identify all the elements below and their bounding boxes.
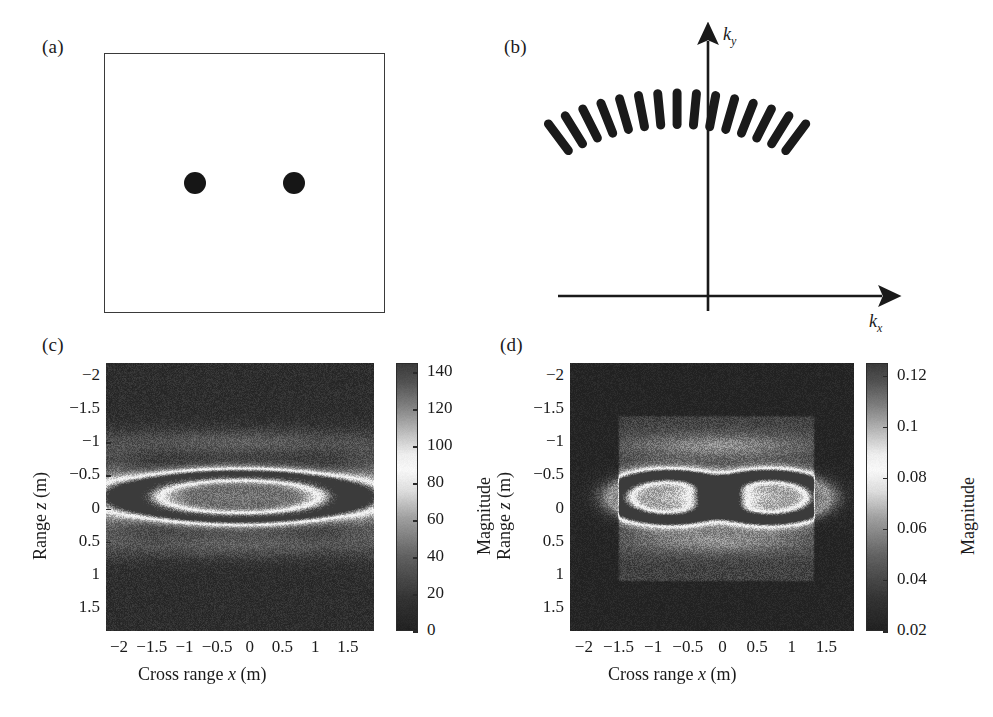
x-tickmark — [250, 626, 252, 631]
panel-c-label: (c) — [42, 334, 64, 356]
kspace-arc-segment — [658, 94, 661, 125]
scatter-point-right — [283, 172, 305, 194]
y-tick-label: 1 — [58, 564, 100, 584]
colorbar-tickmark — [883, 631, 888, 633]
colorbar-tick-label: 0 — [427, 620, 436, 640]
colorbar-tick-label: 20 — [427, 583, 444, 603]
kspace-arc-segment — [583, 109, 598, 138]
y-tickmark — [570, 509, 575, 511]
y-tickmark — [106, 409, 111, 411]
y-tick-label: −2 — [58, 365, 100, 385]
panel-c-colorbar-title: Magnitude — [474, 477, 495, 555]
colorbar-tick-label: 0.06 — [897, 518, 927, 538]
y-tick-label: −1.5 — [522, 398, 564, 418]
panel-d-label: (d) — [500, 334, 523, 356]
y-tickmark — [570, 608, 575, 610]
panel-d-yaxis-title-prefix: Range — [494, 510, 514, 560]
y-tick-label: 0 — [58, 498, 100, 518]
y-tickmark — [570, 409, 575, 411]
scatter-point-left — [184, 172, 206, 194]
kspace-arc-segment — [710, 96, 716, 127]
x-tickmark — [792, 626, 794, 631]
panel-c-yaxis-title-var: z — [30, 503, 50, 510]
x-tickmark — [348, 626, 350, 631]
ky-axis-label-k: k — [723, 24, 731, 44]
y-tickmark — [570, 376, 575, 378]
panel-d-yaxis-title: Range z (m) — [494, 472, 515, 560]
colorbar-tickmark — [413, 520, 418, 522]
y-tickmark — [106, 542, 111, 544]
y-tick-label: −0.5 — [58, 464, 100, 484]
colorbar-tickmark — [883, 376, 888, 378]
panel-d-xaxis-title-var: x — [698, 664, 706, 684]
kspace-support-arc — [548, 93, 805, 151]
x-tickmark — [757, 626, 759, 631]
colorbar-tickmark — [413, 446, 418, 448]
x-tickmark — [584, 626, 586, 631]
panel-d-xaxis-title-unit: (m) — [706, 664, 737, 684]
y-tick-label: −1 — [58, 431, 100, 451]
y-tick-label: 1.5 — [58, 597, 100, 617]
y-tick-label: 1.5 — [522, 597, 564, 617]
y-tickmark — [106, 442, 111, 444]
y-tickmark — [570, 575, 575, 577]
x-tickmark — [826, 626, 828, 631]
kspace-arc-segment — [741, 103, 753, 133]
colorbar-tickmark — [883, 529, 888, 531]
ky-axis-label: ky — [723, 24, 736, 49]
kx-axis-label-k: k — [869, 311, 877, 331]
kspace-arc-segment — [601, 103, 613, 133]
kx-axis-label: kx — [869, 311, 882, 336]
colorbar-tick-label: 0.1 — [897, 416, 918, 436]
colorbar-tickmark — [883, 478, 888, 480]
panel-b-kspace-diagram — [480, 15, 910, 345]
x-tickmark — [315, 626, 317, 631]
panel-d-yaxis-title-unit: (m) — [494, 472, 514, 503]
y-tickmark — [570, 475, 575, 477]
colorbar-tick-label: 120 — [427, 398, 453, 418]
panel-d-colorbar-title: Magnitude — [958, 477, 979, 555]
colorbar-tick-label: 60 — [427, 509, 444, 529]
x-tick-label: 1.5 — [326, 637, 370, 657]
y-tickmark — [106, 376, 111, 378]
x-tickmark — [618, 626, 620, 631]
colorbar-tick-label: 0.12 — [897, 365, 927, 385]
kspace-arc-segment — [693, 94, 696, 125]
colorbar-tick-label: 40 — [427, 546, 444, 566]
colorbar-tick-label: 0.04 — [897, 569, 927, 589]
kspace-arc-segment — [726, 99, 735, 130]
x-tickmark — [152, 626, 154, 631]
kspace-arc-segment — [620, 99, 629, 130]
y-tick-label: −2 — [522, 365, 564, 385]
y-tick-label: −0.5 — [522, 464, 564, 484]
y-tickmark — [106, 475, 111, 477]
panel-d-colorbar — [866, 363, 888, 631]
kspace-arc-segment — [548, 124, 568, 151]
panel-c-xaxis-title: Cross range x (m) — [138, 664, 266, 685]
kx-axis-label-sub: x — [877, 321, 882, 335]
panel-c-yaxis-title-prefix: Range — [30, 510, 50, 560]
panel-c-xaxis-title-prefix: Cross range — [138, 664, 228, 684]
colorbar-tickmark — [413, 594, 418, 596]
y-tick-label: 0.5 — [58, 531, 100, 551]
y-tickmark — [106, 575, 111, 577]
colorbar-tickmark — [883, 580, 888, 582]
panel-c-heatmap — [106, 363, 374, 631]
panel-c-yaxis-title: Range z (m) — [30, 472, 51, 560]
x-tickmark — [722, 626, 724, 631]
colorbar-tickmark — [413, 483, 418, 485]
panel-c-colorbar — [396, 363, 418, 631]
y-tickmark — [570, 442, 575, 444]
ky-axis-label-sub: y — [731, 34, 736, 48]
colorbar-tickmark — [413, 557, 418, 559]
colorbar-tick-label: 0.02 — [897, 620, 927, 640]
panel-a-scene-box — [104, 53, 385, 313]
y-tickmark — [106, 509, 111, 511]
kspace-arc-segment — [639, 96, 645, 127]
panel-d-xaxis-title: Cross range x (m) — [608, 664, 736, 685]
x-tickmark — [184, 626, 186, 631]
x-tickmark — [119, 626, 121, 631]
kspace-arc-segment — [772, 116, 789, 144]
panel-c-xaxis-title-var: x — [228, 664, 236, 684]
kspace-arc-segment — [565, 116, 582, 144]
